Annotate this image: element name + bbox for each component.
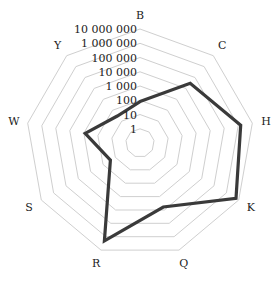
- category-label-k: K: [247, 201, 256, 214]
- data-series: [85, 83, 241, 241]
- ring-value-label: 10 000: [99, 66, 138, 79]
- ring-value-label: 1 000 000: [81, 37, 137, 50]
- ring-value-label: 1 000: [106, 80, 138, 93]
- grid-rings: [28, 29, 253, 250]
- grid-ring: [112, 115, 168, 170]
- grid-ring: [28, 29, 253, 250]
- category-label-c: C: [218, 39, 226, 52]
- ring-value-label: 10: [123, 109, 137, 122]
- ring-value-label: 10 000 000: [74, 23, 137, 36]
- series-polygon: [85, 83, 241, 241]
- category-label-b: B: [136, 9, 144, 22]
- category-label-y: Y: [53, 39, 62, 52]
- category-label-r: R: [92, 257, 101, 270]
- ring-value-label: 100: [116, 94, 137, 107]
- category-labels: BCHKQRSWY: [8, 9, 271, 270]
- ring-value-label: 1: [130, 123, 137, 136]
- ring-value-label: 100 000: [92, 52, 138, 65]
- radar-chart: 1101001 00010 000100 0001 000 00010 000 …: [0, 0, 277, 287]
- category-label-w: W: [8, 115, 20, 128]
- grid-ring: [56, 58, 224, 224]
- category-label-s: S: [25, 201, 33, 214]
- category-label-h: H: [261, 115, 271, 128]
- category-label-q: Q: [179, 257, 188, 270]
